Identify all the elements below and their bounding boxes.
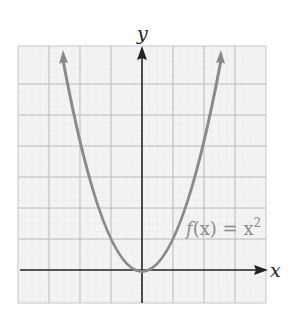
function-label: f(x) = x2 bbox=[184, 216, 261, 239]
y-axis-label: y bbox=[136, 22, 148, 44]
parabola-chart: y x f(x) = x2 bbox=[0, 0, 294, 325]
x-axis-label: x bbox=[270, 259, 281, 281]
